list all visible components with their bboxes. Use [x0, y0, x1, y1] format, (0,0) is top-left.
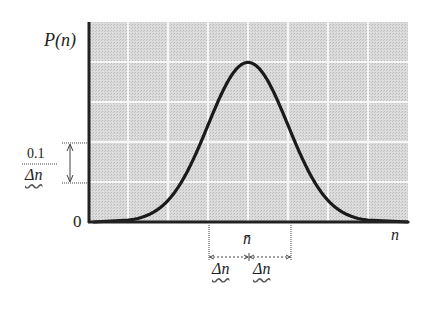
scale-numerator: 0.1 — [27, 146, 45, 162]
chart-figure: P(n) 0 0.1 Δn n n̄ Δn Δn — [0, 0, 438, 311]
y-axis-label: P(n) — [44, 30, 76, 51]
origin-label: 0 — [73, 212, 82, 232]
mean-label: n̄ — [243, 230, 251, 248]
delta-left-label: Δn — [212, 260, 229, 278]
scale-denominator: Δn — [25, 166, 42, 184]
delta-right-label: Δn — [253, 260, 270, 278]
x-axis-label: n — [391, 226, 399, 244]
